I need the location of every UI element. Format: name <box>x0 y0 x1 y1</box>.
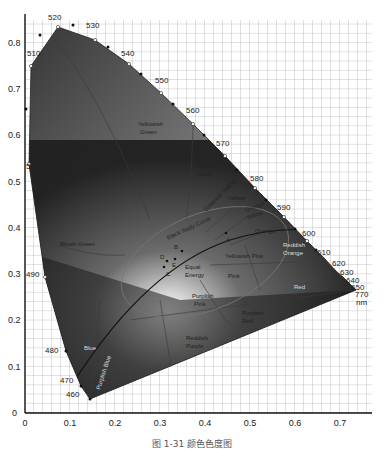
wl-540: 540 <box>121 49 135 58</box>
region-yellow-green-2: Green <box>196 171 213 177</box>
equal-energy-label-2: Energy <box>185 272 204 278</box>
region-green: Green <box>62 141 79 147</box>
region-red: Red <box>294 284 305 290</box>
region-yellowish-green: Yellowish <box>138 121 163 127</box>
wl-470: 470 <box>60 376 74 385</box>
region-reddish-orange: Reddish <box>283 242 305 248</box>
region-orange: Orange <box>255 228 276 234</box>
region-purplish-pink-2: Pink <box>194 301 207 307</box>
y-tick: 0.7 <box>8 84 21 94</box>
y-tick: 0.6 <box>8 130 21 140</box>
x-tick: 0 <box>22 418 27 428</box>
region-reddish-purple: Reddish <box>186 335 208 341</box>
x-axis-ticks: 0 0.1 0.2 0.3 0.4 0.5 0.6 0.7 <box>22 418 346 428</box>
figure-caption: 图 1-31 颜色色度图 <box>0 437 384 449</box>
unit-nm: nm <box>356 298 367 307</box>
y-tick: 0.3 <box>8 269 21 279</box>
region-yellow: Yellow <box>228 195 246 201</box>
wl-500: 500 <box>26 162 40 171</box>
region-yellowish-green-2: Green <box>140 129 157 135</box>
wl-570: 570 <box>216 139 230 148</box>
wl-480: 480 <box>45 346 59 355</box>
equal-energy-label: Equal <box>185 264 200 270</box>
wl-520: 520 <box>48 13 62 22</box>
point-a: A <box>226 237 230 243</box>
y-tick: 0.4 <box>8 223 21 233</box>
y-tick: 0.1 <box>8 362 21 372</box>
wl-530: 530 <box>86 21 100 30</box>
x-tick: 0.7 <box>334 418 347 428</box>
x-tick: 0.1 <box>64 418 77 428</box>
wl-580: 580 <box>250 174 264 183</box>
region-reddish-orange-2: Orange <box>283 250 304 256</box>
x-tick: 0.4 <box>199 418 212 428</box>
point-d: D <box>160 254 165 260</box>
wl-550: 550 <box>155 76 169 85</box>
y-tick: 0.8 <box>8 38 21 48</box>
wl-600: 600 <box>302 229 316 238</box>
region-yellow-green: Yellow <box>196 163 214 169</box>
x-tick: 0.6 <box>289 418 302 428</box>
y-tick: 0.2 <box>8 315 21 325</box>
wl-620: 620 <box>332 259 346 268</box>
region-purplish-pink: Purplish <box>192 293 214 299</box>
wl-590: 590 <box>277 203 291 212</box>
wl-560: 560 <box>186 106 200 115</box>
wl-490: 490 <box>26 270 40 279</box>
wl-510: 510 <box>27 49 41 58</box>
y-tick: 0.5 <box>8 177 21 187</box>
point-c: C <box>166 271 171 277</box>
region-reddish-purple-2: Purple <box>186 343 204 349</box>
region-bluish-green: Bluish Green <box>60 241 95 247</box>
x-tick: 0.3 <box>154 418 167 428</box>
region-blue: Blue <box>84 345 97 351</box>
region-purplish-red: Purplish <box>242 310 264 316</box>
x-tick: 0.2 <box>109 418 122 428</box>
y-tick: 0 <box>12 408 17 418</box>
point-e: E <box>172 262 176 268</box>
region-purplish-red-2: Red <box>242 318 253 324</box>
wl-610: 610 <box>317 248 331 257</box>
region-yellowish-pink: Yellowish Pink <box>225 253 264 259</box>
wl-460: 460 <box>66 390 80 399</box>
chromaticity-diagram: 0 0.1 0.2 0.3 0.4 0.5 0.6 0.7 0.8 0 0.1 … <box>0 0 384 449</box>
point-b: B <box>174 244 178 250</box>
y-axis-ticks: 0 0.1 0.2 0.3 0.4 0.5 0.6 0.7 0.8 <box>8 38 21 418</box>
region-pink: Pink <box>228 273 241 279</box>
x-tick: 0.5 <box>244 418 257 428</box>
